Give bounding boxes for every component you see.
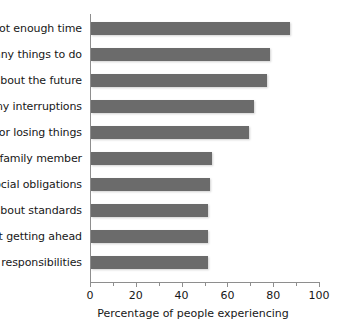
category-label: g or losing things bbox=[0, 127, 82, 139]
x-axis-minor-tick bbox=[113, 282, 114, 286]
x-axis-tick bbox=[319, 282, 320, 287]
category-label: f a family member bbox=[0, 153, 82, 165]
x-axis-title: Percentage of people experiencing bbox=[0, 307, 344, 321]
bar bbox=[91, 48, 270, 61]
bar bbox=[91, 256, 208, 269]
x-axis-minor-tick bbox=[159, 282, 160, 286]
x-axis-tick-label: 40 bbox=[175, 289, 189, 302]
bar bbox=[91, 22, 290, 35]
x-axis-minor-tick bbox=[250, 282, 251, 286]
bar bbox=[91, 152, 212, 165]
category-axis-labels: Not enough timemany things to doabout th… bbox=[0, 0, 86, 282]
bar bbox=[91, 74, 267, 87]
bar bbox=[91, 204, 208, 217]
category-label: ut getting ahead bbox=[0, 231, 82, 243]
plot-area bbox=[90, 14, 342, 282]
x-axis-tick-label: 20 bbox=[129, 289, 143, 302]
category-label: s about standards bbox=[0, 205, 82, 217]
category-label: Social obligations bbox=[0, 179, 82, 191]
x-axis-tick bbox=[136, 282, 137, 287]
bar-chart: Not enough timemany things to doabout th… bbox=[0, 0, 344, 328]
x-axis-minor-tick bbox=[205, 282, 206, 286]
category-label: y responsibilities bbox=[0, 257, 82, 269]
x-axis-tick-label: 60 bbox=[220, 289, 234, 302]
category-label: about the future bbox=[0, 75, 82, 87]
x-axis-tick bbox=[90, 282, 91, 287]
x-axis-tick bbox=[227, 282, 228, 287]
x-axis-tick bbox=[182, 282, 183, 287]
bar bbox=[91, 178, 210, 191]
x-axis-tick-label: 100 bbox=[309, 289, 330, 302]
x-axis-minor-tick bbox=[296, 282, 297, 286]
category-label: any interruptions bbox=[0, 101, 82, 113]
bar bbox=[91, 126, 249, 139]
bar bbox=[91, 100, 254, 113]
x-axis-tick-label: 80 bbox=[266, 289, 280, 302]
category-label: Not enough time bbox=[0, 23, 82, 35]
category-label: many things to do bbox=[0, 49, 82, 61]
x-axis-tick-label: 0 bbox=[87, 289, 94, 302]
bar bbox=[91, 230, 208, 243]
x-axis-tick bbox=[273, 282, 274, 287]
